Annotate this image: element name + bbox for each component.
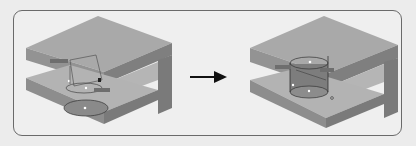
dim-label-1 [275,65,291,69]
left-model [26,16,172,124]
dim-label-2 [320,68,334,72]
dim-label-2 [94,88,110,92]
right-model [250,16,398,128]
figure-canvas [0,0,416,146]
dim-label-1 [50,59,68,63]
right-arrow-icon [190,71,227,83]
